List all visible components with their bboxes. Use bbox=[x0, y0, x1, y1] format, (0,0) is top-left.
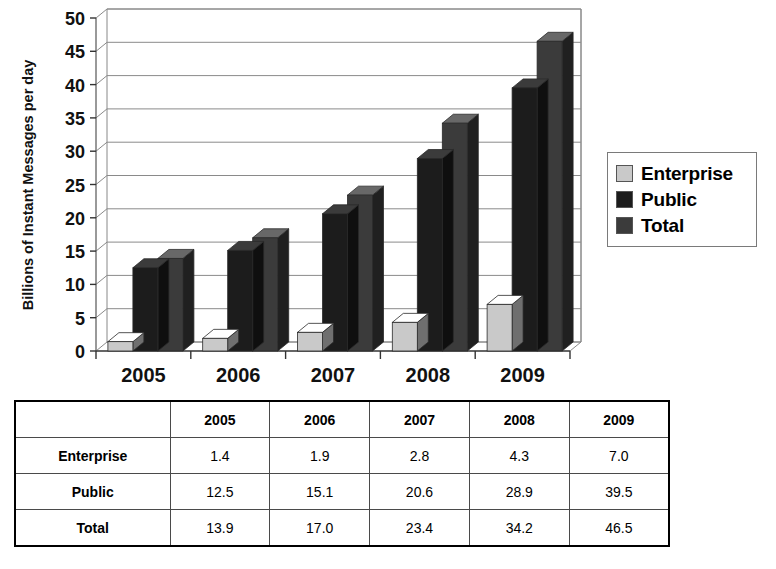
y-tick-label: 45 bbox=[65, 42, 85, 62]
legend-label-enterprise: Enterprise bbox=[641, 164, 733, 183]
table-column-header-2008: 2008 bbox=[469, 401, 569, 438]
table-row-label-public: Public bbox=[15, 474, 170, 510]
y-axis-tick-labels: 05101520253035404550 bbox=[65, 9, 85, 362]
legend-swatch-enterprise bbox=[616, 165, 633, 182]
y-tick-label: 15 bbox=[65, 242, 85, 262]
table-cell-enterprise-2008: 4.3 bbox=[469, 438, 569, 474]
table-row: Total13.917.023.434.246.5 bbox=[15, 510, 669, 547]
y-tick-label: 20 bbox=[65, 209, 85, 229]
table-cell-total-2008: 34.2 bbox=[469, 510, 569, 547]
table-row-label-total: Total bbox=[15, 510, 170, 547]
table-cell-enterprise-2006: 1.9 bbox=[270, 438, 370, 474]
bar-chart-figure: Billions of Instant Messages per day 051… bbox=[0, 0, 776, 390]
table-cell-total-2005: 13.9 bbox=[170, 510, 270, 547]
bar-enterprise-2009 bbox=[487, 295, 523, 351]
table-row-label-enterprise: Enterprise bbox=[15, 438, 170, 474]
table-row: Public12.515.120.628.939.5 bbox=[15, 474, 669, 510]
legend-item-enterprise: Enterprise bbox=[616, 160, 748, 186]
table-cell-enterprise-2005: 1.4 bbox=[170, 438, 270, 474]
table-column-header-2009: 2009 bbox=[569, 401, 669, 438]
table-column-header-2007: 2007 bbox=[370, 401, 470, 438]
table-cell-public-2005: 12.5 bbox=[170, 474, 270, 510]
legend-item-total: Total bbox=[616, 212, 748, 238]
y-tick-label: 0 bbox=[75, 342, 85, 362]
legend-swatch-public bbox=[616, 191, 633, 208]
x-tick-label-2007: 2007 bbox=[311, 364, 356, 386]
legend-swatch-total bbox=[616, 217, 633, 234]
y-axis-title: Billions of Instant Messages per day bbox=[20, 60, 36, 311]
y-tick-label: 40 bbox=[65, 76, 85, 96]
table-cell-public-2008: 28.9 bbox=[469, 474, 569, 510]
table-header-row: 20052006200720082009 bbox=[15, 401, 669, 438]
table-row: Enterprise1.41.92.84.37.0 bbox=[15, 438, 669, 474]
table-column-header-2006: 2006 bbox=[270, 401, 370, 438]
y-tick-label: 35 bbox=[65, 109, 85, 129]
y-tick-label: 5 bbox=[75, 309, 85, 329]
y-tick-label: 30 bbox=[65, 142, 85, 162]
y-tick-label: 25 bbox=[65, 176, 85, 196]
legend-label-total: Total bbox=[641, 216, 684, 235]
legend-item-public: Public bbox=[616, 186, 748, 212]
legend-label-public: Public bbox=[641, 190, 697, 209]
x-tick-label-2009: 2009 bbox=[500, 364, 545, 386]
x-tick-label-2005: 2005 bbox=[121, 364, 166, 386]
x-tick-label-2008: 2008 bbox=[406, 364, 451, 386]
y-tick-label: 10 bbox=[65, 275, 85, 295]
chart-legend: Enterprise Public Total bbox=[607, 152, 757, 247]
table-cell-enterprise-2009: 7.0 bbox=[569, 438, 669, 474]
table-cell-total-2006: 17.0 bbox=[270, 510, 370, 547]
table-cell-public-2006: 15.1 bbox=[270, 474, 370, 510]
y-tick-label: 50 bbox=[65, 9, 85, 29]
bar-enterprise-2007 bbox=[298, 323, 334, 351]
data-table: 20052006200720082009Enterprise1.41.92.84… bbox=[14, 400, 670, 547]
table-cell-total-2007: 23.4 bbox=[370, 510, 470, 547]
table-cell-public-2009: 39.5 bbox=[569, 474, 669, 510]
x-tick-label-2006: 2006 bbox=[216, 364, 261, 386]
x-axis-tick-labels: 20052006200720082009 bbox=[96, 351, 570, 386]
data-table-container: 20052006200720082009Enterprise1.41.92.84… bbox=[14, 400, 668, 547]
bar-enterprise-2008 bbox=[392, 313, 428, 351]
table-cell-enterprise-2007: 2.8 bbox=[370, 438, 470, 474]
table-cell-total-2009: 46.5 bbox=[569, 510, 669, 547]
table-column-header-2005: 2005 bbox=[170, 401, 270, 438]
table-cell-public-2007: 20.6 bbox=[370, 474, 470, 510]
table-corner-cell bbox=[15, 401, 170, 438]
